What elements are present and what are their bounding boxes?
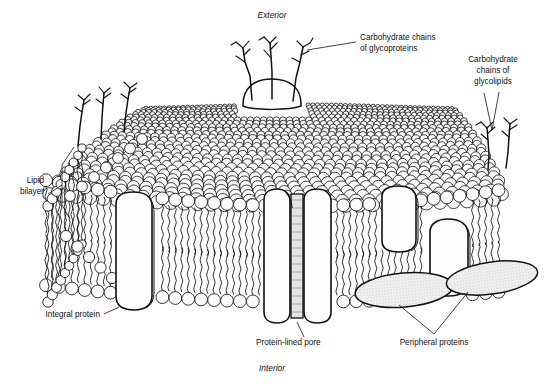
- phospholipid-head: [208, 197, 221, 210]
- label-integral-protein: Integral protein: [45, 310, 100, 319]
- lipid-tail: [56, 241, 58, 283]
- phospholipid-head: [156, 291, 169, 304]
- lipid-tail: [219, 250, 221, 294]
- lipid-tail: [213, 209, 215, 255]
- protein-lined-pore: [264, 189, 331, 323]
- lipid-tail: [47, 211, 49, 255]
- phospholipid-head: [60, 230, 71, 241]
- integral-protein-left: [116, 192, 154, 310]
- phospholipid-head: [169, 292, 182, 305]
- label-carb-glycoproteins-line1: Carbohydrate chains: [360, 33, 436, 42]
- lipid-tail: [174, 248, 176, 292]
- lipid-tail: [161, 205, 163, 251]
- phospholipid-head: [453, 189, 466, 202]
- label-exterior: Exterior: [258, 10, 288, 20]
- phospholipid-head: [169, 193, 182, 206]
- lipid-tail: [181, 207, 183, 253]
- lipid-tail: [200, 249, 202, 293]
- lipid-tail: [187, 207, 189, 253]
- lipid-tail: [368, 211, 370, 257]
- lipid-tail: [187, 248, 189, 292]
- lipid-tail: [258, 251, 260, 295]
- lipid-tail: [213, 250, 215, 294]
- lipid-tail: [207, 209, 209, 255]
- label-interior: Interior: [259, 363, 286, 373]
- lipid-tail: [174, 206, 176, 252]
- membrane-svg: Exterior Interior Carbohydrate chains of…: [0, 0, 544, 384]
- lipid-tail: [375, 210, 377, 256]
- lipid-tail: [226, 250, 228, 294]
- lipid-tail: [342, 251, 344, 295]
- phospholipid-head: [234, 295, 247, 308]
- label-lipid-bilayer-line1: Lipid: [27, 176, 45, 185]
- lipid-tail: [219, 210, 221, 256]
- phospholipid-head: [479, 186, 492, 199]
- lipid-tail: [181, 248, 183, 292]
- lipid-tail: [336, 251, 338, 295]
- phospholipid-head: [66, 282, 79, 295]
- label-peripheral-proteins: Peripheral proteins: [400, 338, 469, 347]
- label-carb-glycolipids-line1: Carbohydrate: [468, 55, 518, 64]
- phospholipid-head: [440, 191, 453, 204]
- lipid-tail: [194, 208, 196, 254]
- carbohydrate-chains-glycoprotein-icon: [231, 37, 313, 101]
- phospholipid-head: [95, 262, 106, 273]
- label-carb-glycolipids-line2: chains of: [477, 66, 510, 75]
- lipid-tail: [168, 206, 170, 252]
- phospholipid-head: [195, 293, 208, 306]
- lipid-tail: [56, 196, 58, 240]
- lipid-tail: [420, 207, 422, 253]
- label-carb-glycolipids-line3: glycolipids: [474, 77, 512, 86]
- phospholipid-head: [74, 151, 82, 159]
- lipid-tail: [226, 210, 228, 256]
- leader-integral-protein: [104, 307, 119, 314]
- membrane-diagram-figure: Exterior Interior Carbohydrate chains of…: [0, 0, 544, 384]
- lipid-tail: [200, 209, 202, 255]
- phospholipid-head: [246, 199, 259, 212]
- lipid-tail: [362, 211, 364, 257]
- phospholipid-head: [78, 144, 86, 152]
- label-carb-glycoproteins-line2: of glycoproteins: [360, 44, 417, 53]
- phospholipid-head: [466, 188, 479, 201]
- leader-carb-glycolipids: [484, 92, 499, 130]
- lipid-tail: [110, 198, 112, 244]
- lipid-tail: [207, 249, 209, 293]
- phospholipid-head: [195, 196, 208, 209]
- phospholipid-head: [77, 181, 88, 192]
- phospholipid-head: [83, 251, 94, 262]
- phospholipid-head: [89, 172, 100, 183]
- lipid-tail: [45, 235, 47, 279]
- label-protein-lined-pore: Protein-lined pore: [256, 338, 321, 347]
- lipid-tail: [168, 247, 170, 291]
- phospholipid-head: [246, 295, 259, 308]
- lipid-tail: [355, 211, 357, 257]
- phospholipid-head: [208, 294, 221, 307]
- lipid-tail: [161, 247, 163, 291]
- phospholipid-head: [113, 153, 124, 164]
- phospholipid-head: [104, 185, 117, 198]
- phospholipid-head: [492, 184, 505, 197]
- leader-protein-lined-pore: [297, 322, 304, 337]
- phospholipid-head: [350, 198, 363, 211]
- phospholipid-head: [72, 241, 83, 252]
- lipid-tail: [252, 251, 254, 295]
- lipid-tail: [81, 198, 83, 240]
- phospholipid-head: [221, 198, 234, 211]
- phospholipid-head: [156, 192, 169, 205]
- phospholipid-head: [78, 284, 91, 297]
- phospholipid-head: [182, 195, 195, 208]
- lipid-tail: [349, 251, 351, 295]
- lipid-tail: [194, 249, 196, 293]
- phospholipid-head: [101, 162, 112, 173]
- phospholipid-head: [137, 134, 148, 145]
- leader-carb-glycoproteins: [307, 42, 356, 50]
- phospholipid-head: [125, 143, 136, 154]
- lipid-tail: [245, 251, 247, 295]
- phospholipid-head: [65, 191, 76, 202]
- lipid-tail: [239, 251, 241, 295]
- phospholipid-head: [91, 183, 104, 196]
- lipid-tail: [239, 211, 241, 257]
- label-lipid-bilayer-line2: bilayer: [20, 187, 44, 196]
- lipid-tail: [232, 211, 234, 257]
- lipid-tail: [472, 201, 474, 247]
